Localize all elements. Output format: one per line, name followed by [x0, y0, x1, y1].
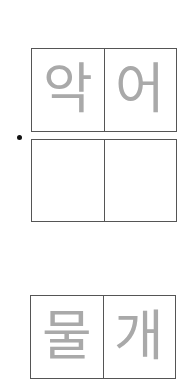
blank-write-cell[interactable]: [32, 140, 104, 221]
trace-cell: 악: [32, 49, 104, 131]
trace-cell: 물: [31, 296, 103, 378]
trace-cell: 어: [104, 49, 177, 131]
bullet-dot-icon: [17, 135, 22, 140]
trace-cell: 개: [103, 296, 176, 378]
word-box-1: 악 어: [31, 48, 177, 132]
word-box-2: 물 개: [30, 295, 176, 379]
writing-box[interactable]: [31, 139, 177, 222]
blank-write-cell[interactable]: [104, 140, 177, 221]
